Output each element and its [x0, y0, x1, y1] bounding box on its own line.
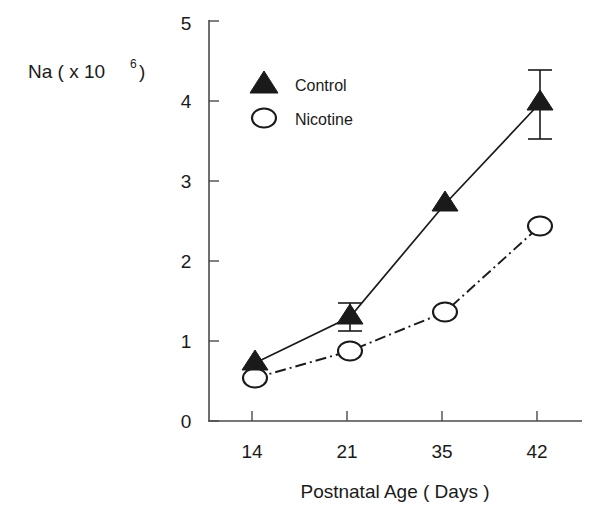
legend-marker-nicotine — [252, 109, 276, 128]
marker-control-42 — [527, 90, 553, 110]
series-line-nicotine — [255, 226, 540, 378]
x-tick-label-2: 35 — [431, 441, 452, 462]
y-axis-ticks — [209, 21, 219, 421]
y-tick-label-3: 3 — [181, 171, 192, 192]
y-axis-label: Na ( x 10 6 ) — [28, 57, 145, 82]
marker-nicotine-21 — [338, 342, 362, 361]
series-line-control — [255, 103, 540, 363]
y-axis-label-close: ) — [139, 61, 145, 82]
series-markers-nicotine — [243, 217, 552, 388]
legend-marker-control — [250, 71, 278, 93]
marker-control-14 — [242, 350, 268, 370]
y-axis-label-exponent: 6 — [130, 57, 137, 71]
y-tick-label-2: 2 — [181, 251, 192, 272]
legend-label-nicotine: Nicotine — [295, 111, 353, 128]
x-axis-title: Postnatal Age ( Days ) — [300, 481, 489, 502]
x-axis-ticks — [252, 411, 537, 421]
chart-figure: Na ( x 10 6 ) 0 1 2 3 4 5 — [0, 0, 609, 510]
chart-svg: Na ( x 10 6 ) 0 1 2 3 4 5 — [0, 0, 609, 510]
chart-legend: Control Nicotine — [250, 71, 353, 128]
marker-nicotine-35 — [433, 303, 457, 322]
y-axis-tick-labels: 0 1 2 3 4 5 — [181, 13, 192, 432]
x-axis-tick-labels: 14 21 35 42 — [241, 441, 547, 462]
y-tick-label-1: 1 — [181, 331, 192, 352]
marker-nicotine-42 — [528, 217, 552, 236]
legend-label-control: Control — [295, 77, 347, 94]
x-tick-label-3: 42 — [526, 441, 547, 462]
y-tick-label-4: 4 — [181, 91, 192, 112]
x-tick-label-1: 21 — [336, 441, 357, 462]
y-tick-label-0: 0 — [181, 411, 192, 432]
y-axis-label-base: Na ( x 10 — [28, 61, 105, 82]
series-markers-control — [242, 90, 553, 370]
x-tick-label-0: 14 — [241, 441, 263, 462]
marker-nicotine-14 — [243, 369, 267, 388]
y-tick-label-5: 5 — [181, 13, 192, 34]
